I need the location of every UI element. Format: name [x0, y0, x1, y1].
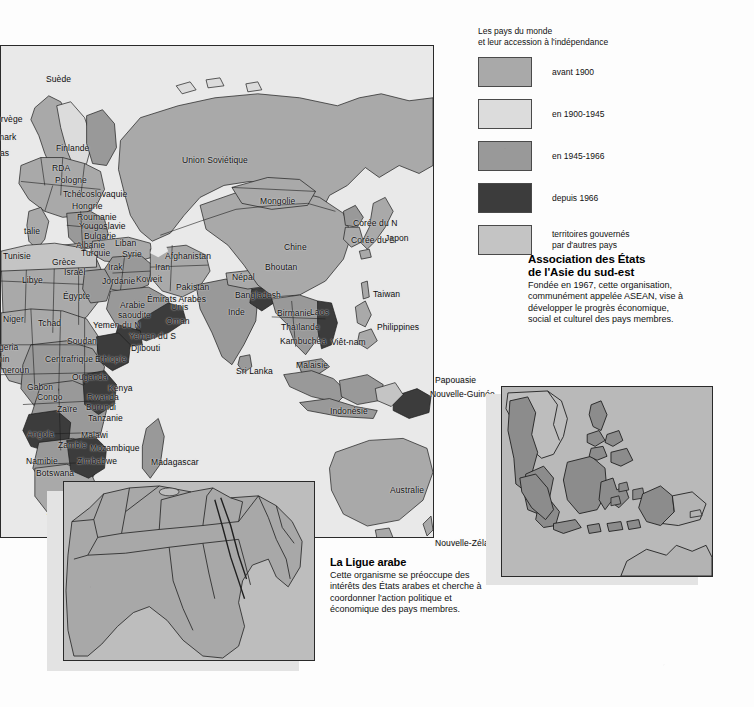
ligue-arabe-note-title: La Ligue arabe	[330, 556, 482, 569]
asean-graphic	[502, 387, 712, 576]
map-legend: Les pays du monde et leur accession à l'…	[478, 26, 738, 265]
legend-title: Les pays du monde et leur accession à l'…	[478, 26, 738, 48]
ligue-arabe-note-body: Cette organisme se préoccupe des intérêt…	[330, 570, 482, 616]
legend-title-line2: et leur accession à l'indépendance	[478, 37, 608, 47]
atlas-page: .c1{fill:#a9a9a9;stroke:#1c1c1c;stroke-w…	[0, 0, 754, 707]
legend-label-territories-line1: territoires gouvernés	[552, 229, 629, 239]
legend-row-1945-1966: en 1945-1966	[478, 139, 738, 173]
legend-row-since-1966: depuis 1966	[478, 181, 738, 215]
asean-note-title-line1: Association des États	[528, 253, 645, 265]
legend-swatch-since-1966	[478, 183, 532, 213]
legend-swatch-1900-1945	[478, 99, 532, 129]
legend-swatch-1945-1966	[478, 141, 532, 171]
asean-note-title: Association des États de l'Asie du sud-e…	[528, 253, 688, 279]
legend-row-before-1900: avant 1900	[478, 55, 738, 89]
asean-inset-map	[501, 386, 713, 577]
asean-note-title-line2: de l'Asie du sud-est	[528, 266, 634, 278]
arab-league-inset-map	[63, 481, 315, 661]
legend-row-territories: territoires gouvernés par d'autres pays	[478, 223, 738, 257]
ligue-arabe-note: La Ligue arabe Cette organisme se préocc…	[330, 556, 482, 616]
legend-label-1945-1966: en 1945-1966	[552, 151, 604, 162]
legend-label-territories-line2: par d'autres pays	[552, 240, 617, 250]
map-label: Papouasie	[435, 376, 476, 385]
main-map-frame: .c1{fill:#a9a9a9;stroke:#1c1c1c;stroke-w…	[0, 45, 434, 538]
world-map-graphic: .c1{fill:#a9a9a9;stroke:#1c1c1c;stroke-w…	[1, 46, 433, 537]
arab-league-graphic	[64, 482, 314, 660]
legend-label-territories: territoires gouvernés par d'autres pays	[552, 229, 629, 251]
legend-swatch-territories	[478, 225, 532, 255]
main-world-map: .c1{fill:#a9a9a9;stroke:#1c1c1c;stroke-w…	[0, 45, 434, 538]
asean-inset-frame	[501, 386, 713, 577]
asean-note: Association des États de l'Asie du sud-e…	[528, 253, 688, 326]
legend-title-line1: Les pays du monde	[478, 26, 552, 36]
legend-label-1900-1945: en 1900-1945	[552, 109, 604, 120]
legend-label-before-1900: avant 1900	[552, 67, 594, 78]
arab-inset-frame	[63, 481, 315, 661]
asean-note-body: Fondée en 1967, cette organisation, comm…	[528, 280, 688, 326]
legend-swatch-before-1900	[478, 57, 532, 87]
legend-label-since-1966: depuis 1966	[552, 193, 598, 204]
legend-row-1900-1945: en 1900-1945	[478, 97, 738, 131]
